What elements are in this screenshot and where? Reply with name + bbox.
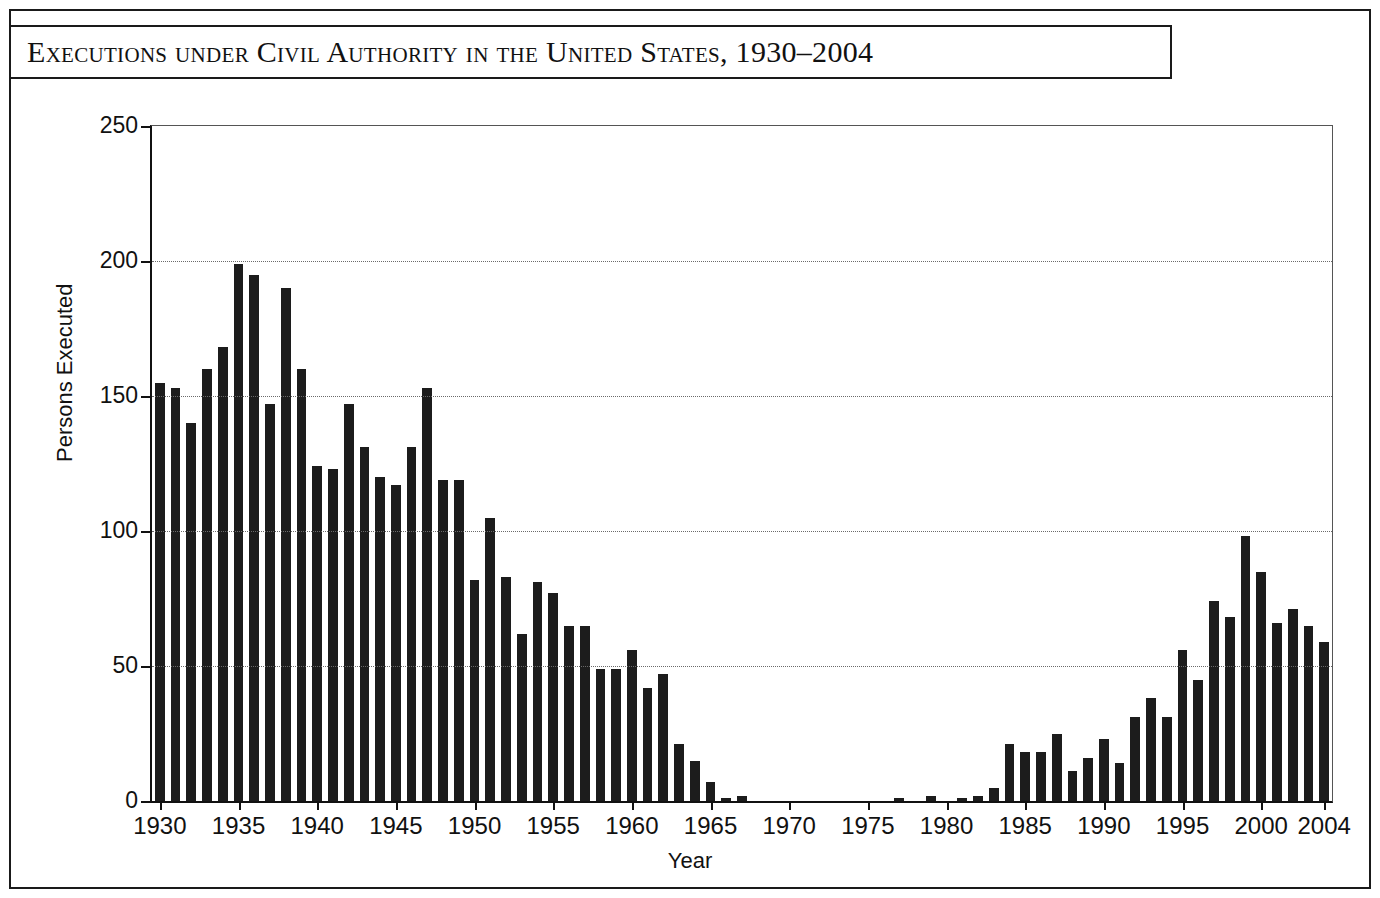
- bar: [533, 582, 543, 801]
- gridline: [152, 531, 1332, 532]
- y-tick-mark: [141, 531, 152, 533]
- x-tick-label: 2000: [1234, 814, 1287, 838]
- bar: [375, 477, 385, 801]
- gridline: [152, 396, 1332, 397]
- x-tick-mark: [1104, 801, 1106, 810]
- x-axis-label: Year: [0, 848, 1380, 874]
- x-tick-mark: [711, 801, 713, 810]
- bar: [1288, 609, 1298, 801]
- bar: [360, 447, 370, 801]
- bar: [627, 650, 637, 801]
- bar: [643, 688, 653, 801]
- gridline: [152, 666, 1332, 667]
- bar: [470, 580, 480, 801]
- bar: [894, 798, 904, 801]
- bar: [1304, 626, 1314, 802]
- bar: [548, 593, 558, 801]
- y-axis-label: Persons Executed: [52, 283, 78, 462]
- x-tick-mark: [160, 801, 162, 810]
- plot-area: 1930193519401945195019551960196519701975…: [150, 125, 1333, 803]
- bar: [1178, 650, 1188, 801]
- x-tick-mark: [475, 801, 477, 810]
- y-tick-mark: [141, 396, 152, 398]
- y-tick-label: 150: [18, 384, 138, 407]
- bar: [407, 447, 417, 801]
- bar: [1162, 717, 1172, 801]
- bar-series: [152, 126, 1332, 801]
- bar: [1272, 623, 1282, 801]
- x-tick-label: 2004: [1297, 814, 1350, 838]
- bar: [737, 796, 747, 801]
- bar: [234, 264, 244, 801]
- bar: [706, 782, 716, 801]
- bar: [218, 347, 228, 801]
- x-tick-label: 1970: [762, 814, 815, 838]
- bar: [596, 669, 606, 801]
- bar: [454, 480, 464, 801]
- bar: [973, 796, 983, 801]
- x-tick-label: 1985: [998, 814, 1051, 838]
- bar: [1005, 744, 1015, 801]
- bar: [957, 798, 967, 801]
- bar: [926, 796, 936, 801]
- x-tick-label: 1995: [1156, 814, 1209, 838]
- y-tick-label: 250: [18, 114, 138, 137]
- bar: [611, 669, 621, 801]
- x-tick-label: 1980: [920, 814, 973, 838]
- x-tick-label: 1950: [448, 814, 501, 838]
- bar: [564, 626, 574, 802]
- bar: [690, 761, 700, 802]
- x-tick-label: 1945: [369, 814, 422, 838]
- x-tick-label: 1955: [526, 814, 579, 838]
- bar: [1130, 717, 1140, 801]
- y-tick-label: 0: [18, 789, 138, 812]
- x-tick-label: 1930: [133, 814, 186, 838]
- x-tick-mark: [868, 801, 870, 810]
- bar: [1052, 734, 1062, 802]
- bar: [1083, 758, 1093, 801]
- bar: [1241, 536, 1251, 801]
- x-tick-label: 1935: [212, 814, 265, 838]
- bar: [517, 634, 527, 801]
- bar: [1209, 601, 1219, 801]
- x-tick-mark: [947, 801, 949, 810]
- x-tick-label: 1975: [841, 814, 894, 838]
- y-tick-label: 100: [18, 519, 138, 542]
- x-tick-mark: [632, 801, 634, 810]
- bar: [186, 423, 196, 801]
- bar: [438, 480, 448, 801]
- y-tick-label: 200: [18, 249, 138, 272]
- bar: [391, 485, 401, 801]
- bar: [249, 275, 259, 802]
- x-tick-mark: [1324, 801, 1326, 810]
- bar: [281, 288, 291, 801]
- page-title: Executions under Civil Authority in the …: [11, 35, 873, 69]
- gridline: [152, 261, 1332, 262]
- bar: [328, 469, 338, 801]
- x-tick-mark: [396, 801, 398, 810]
- bar: [989, 788, 999, 802]
- bar: [422, 388, 432, 801]
- bar: [1146, 698, 1156, 801]
- bar: [312, 466, 322, 801]
- x-tick-mark: [789, 801, 791, 810]
- bar: [658, 674, 668, 801]
- chart-title-box: Executions under Civil Authority in the …: [9, 25, 1172, 79]
- bar: [344, 404, 354, 801]
- bar: [1099, 739, 1109, 801]
- chart-figure: Executions under Civil Authority in the …: [0, 0, 1380, 898]
- bar: [501, 577, 511, 801]
- y-tick-mark: [141, 126, 152, 128]
- y-tick-mark: [141, 261, 152, 263]
- y-tick-mark: [141, 801, 152, 803]
- bar: [485, 518, 495, 802]
- x-tick-mark: [239, 801, 241, 810]
- bar: [1225, 617, 1235, 801]
- x-tick-label: 1990: [1077, 814, 1130, 838]
- x-tick-mark: [1025, 801, 1027, 810]
- bar: [202, 369, 212, 801]
- x-tick-mark: [1183, 801, 1185, 810]
- bar: [171, 388, 181, 801]
- y-tick-label: 50: [18, 654, 138, 677]
- x-tick-label: 1965: [684, 814, 737, 838]
